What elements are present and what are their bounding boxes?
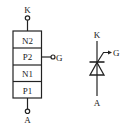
layer-p1-label: P1 [23,86,33,96]
structure-cathode-label: K [24,5,31,15]
symbol-gate-label: G [113,48,120,58]
layer-n2-label: N2 [22,36,33,46]
gate-terminal-icon [51,55,55,59]
layer-p2-label: P2 [23,52,33,62]
anode-terminal-icon [25,109,29,113]
gate-arrow-icon [108,51,112,55]
symbol-anode-label: A [94,98,101,108]
thyristor-diagram: K N2 P2 N1 P1 G A K G A [0,0,130,130]
thyristor-symbol-icon: K G A [90,30,121,108]
layer-structure: K N2 P2 N1 P1 G A [13,5,63,125]
structure-gate-label: G [56,53,63,63]
layer-n1-label: N1 [22,69,33,79]
cathode-terminal-icon [25,16,29,20]
structure-anode-label: A [24,115,31,125]
symbol-cathode-label: K [94,30,101,40]
